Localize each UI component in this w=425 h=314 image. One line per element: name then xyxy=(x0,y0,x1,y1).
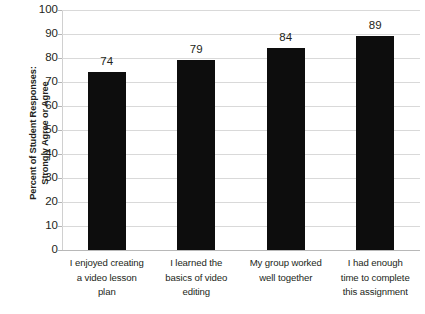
y-tick-label: 100 xyxy=(24,4,58,16)
bar xyxy=(356,36,394,250)
bar-chart: Percent of Student Responses: Strongly A… xyxy=(0,0,425,314)
x-category-label-line: well together xyxy=(241,271,331,286)
x-category-label-line: plan xyxy=(62,285,152,300)
y-tick-label: 70 xyxy=(24,76,58,88)
bar-group: 84 xyxy=(241,10,331,250)
x-category-label-line: I learned the xyxy=(152,256,242,271)
bar-value-label: 79 xyxy=(190,44,203,56)
x-category-label: I learned thebasics of videoediting xyxy=(152,256,242,300)
x-category-label-line: editing xyxy=(152,285,242,300)
x-category-label-line: I had enough xyxy=(331,256,421,271)
x-category-label-line: this assignment xyxy=(331,285,421,300)
bar-group: 74 xyxy=(62,10,152,250)
y-tick-label: 80 xyxy=(24,52,58,64)
axis-baseline xyxy=(62,250,420,251)
y-axis-tick-labels: 0102030405060708090100 xyxy=(24,0,58,260)
bar xyxy=(267,48,305,250)
y-tick-label: 50 xyxy=(24,124,58,136)
x-category-label: I enjoyed creatinga video lessonplan xyxy=(62,256,152,300)
bar xyxy=(88,72,126,250)
y-tick-label: 90 xyxy=(24,28,58,40)
x-category-label-line: basics of video xyxy=(152,271,242,286)
x-category-label: I had enoughtime to completethis assignm… xyxy=(331,256,421,300)
bar-group: 79 xyxy=(152,10,242,250)
x-axis-category-labels: I enjoyed creatinga video lessonplanI le… xyxy=(62,256,420,314)
x-category-label: My group workedwell together xyxy=(241,256,331,285)
x-category-label-line: a video lesson xyxy=(62,271,152,286)
bar-group: 89 xyxy=(331,10,421,250)
bar-value-label: 84 xyxy=(279,32,292,44)
y-tick-label: 30 xyxy=(24,172,58,184)
x-category-label-line: My group worked xyxy=(241,256,331,271)
y-tick-label: 10 xyxy=(24,220,58,232)
bar xyxy=(177,60,215,250)
y-tick-label: 0 xyxy=(24,244,58,256)
y-tick-mark xyxy=(58,250,62,251)
x-category-label-line: I enjoyed creating xyxy=(62,256,152,271)
x-category-label-line: time to complete xyxy=(331,271,421,286)
bar-value-label: 74 xyxy=(100,56,113,68)
y-tick-label: 20 xyxy=(24,196,58,208)
y-tick-label: 40 xyxy=(24,148,58,160)
bar-value-label: 89 xyxy=(369,20,382,32)
bars-container: 74798489 xyxy=(62,10,420,250)
plot-area: 74798489 xyxy=(62,10,420,250)
y-tick-label: 60 xyxy=(24,100,58,112)
